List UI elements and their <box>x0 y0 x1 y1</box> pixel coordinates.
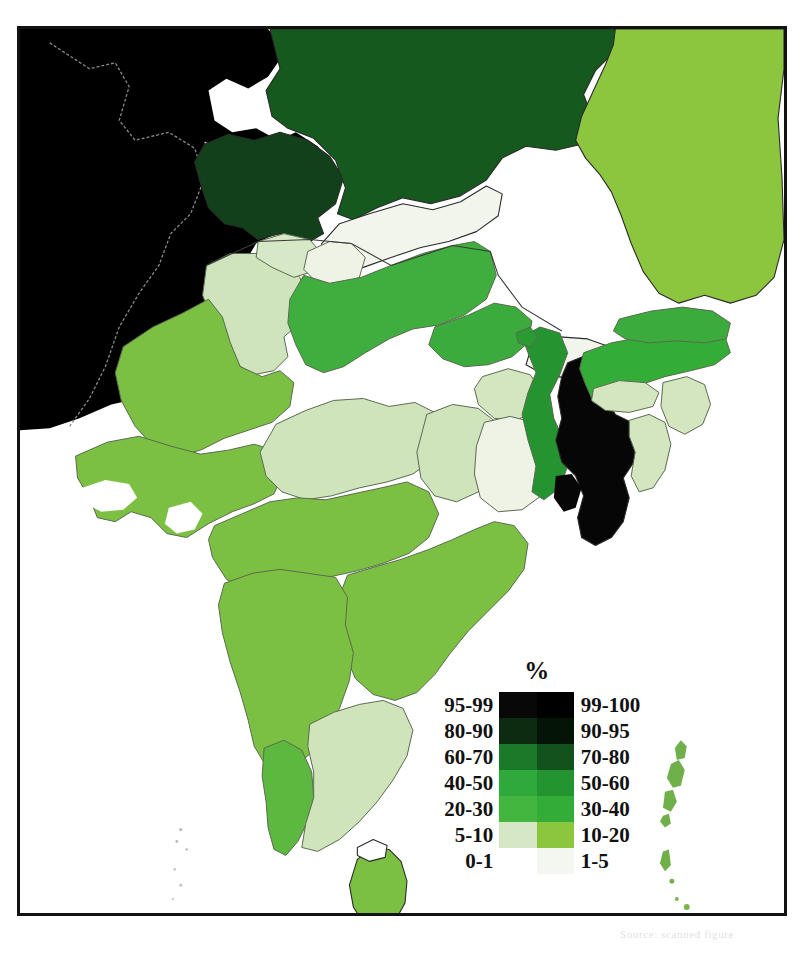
legend-swatch-right <box>537 796 574 822</box>
legend-label-left: 0-1 <box>432 848 499 874</box>
legend-label-right: 90-95 <box>574 718 642 744</box>
legend-swatch-right <box>537 744 574 770</box>
legend-title: % <box>432 657 642 685</box>
legend-swatch-left <box>499 718 536 744</box>
legend-label-right: 10-20 <box>574 822 642 848</box>
legend-row: 95-99 99-100 <box>432 692 642 718</box>
legend-label-left: 80-90 <box>432 718 499 744</box>
map-frame: .cb { stroke:#2a2a2a; stroke-width:1.1; … <box>17 26 787 916</box>
legend-swatch-right <box>537 718 574 744</box>
legend-swatch-left <box>499 822 536 848</box>
map-figure: .cb { stroke:#2a2a2a; stroke-width:1.1; … <box>0 0 807 953</box>
caption-ghost: Source: scanned figure <box>620 928 734 940</box>
legend-swatch-left <box>499 770 536 796</box>
legend-label-left: 5-10 <box>432 822 499 848</box>
legend-swatch-right <box>537 822 574 848</box>
legend-swatch-left <box>499 692 536 718</box>
legend-label-left: 40-50 <box>432 770 499 796</box>
legend-label-left: 20-30 <box>432 796 499 822</box>
legend-row: 40-50 50-60 <box>432 770 642 796</box>
map-canvas: .cb { stroke:#2a2a2a; stroke-width:1.1; … <box>20 29 784 913</box>
legend-grid: 95-99 99-100 80-90 90-95 60-70 70-80 <box>432 692 642 874</box>
legend-row: 80-90 90-95 <box>432 718 642 744</box>
legend-row: 20-30 30-40 <box>432 796 642 822</box>
legend-label-right: 99-100 <box>574 692 642 718</box>
legend-swatch-right <box>537 770 574 796</box>
legend-label-right: 70-80 <box>574 744 642 770</box>
legend-label-right: 30-40 <box>574 796 642 822</box>
legend-swatch-left <box>499 744 536 770</box>
legend-row: 0-1 1-5 <box>432 848 642 874</box>
legend-label-left: 60-70 <box>432 744 499 770</box>
legend-label-right: 50-60 <box>574 770 642 796</box>
legend-label-left: 95-99 <box>432 692 499 718</box>
legend-swatch-right <box>537 692 574 718</box>
legend-swatch-left <box>499 848 536 874</box>
legend-row: 5-10 10-20 <box>432 822 642 848</box>
legend-label-right: 1-5 <box>574 848 642 874</box>
legend: % 95-99 99-100 80-90 90-95 60-70 <box>432 657 642 895</box>
legend-row: 60-70 70-80 <box>432 744 642 770</box>
legend-swatch-right <box>537 848 574 874</box>
legend-swatch-left <box>499 796 536 822</box>
